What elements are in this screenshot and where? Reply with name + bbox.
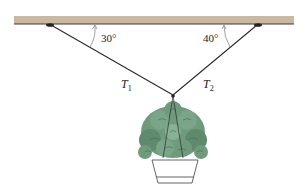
angle-label-left: 30°	[101, 32, 116, 44]
tension-label-t1: T1	[121, 77, 132, 93]
plant-foliage	[138, 96, 208, 159]
angle-label-right: 40°	[203, 32, 218, 44]
ceiling	[14, 16, 294, 24]
angle-arc-left	[90, 25, 97, 47]
diagram-canvas: 30° 40° T1 T2	[0, 0, 307, 196]
angle-arc-right	[222, 25, 230, 47]
plant-pot	[152, 160, 198, 183]
tension-label-t2: T2	[203, 77, 214, 93]
